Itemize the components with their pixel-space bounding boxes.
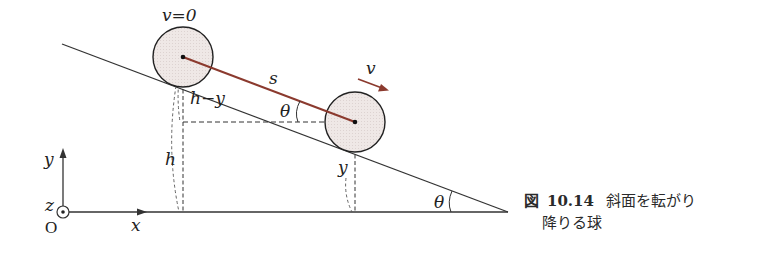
figure-label: 図 bbox=[524, 192, 539, 210]
label-h-minus-y: h−y bbox=[190, 88, 225, 108]
figure-caption: 図10.14斜面を転がり 降りる球 bbox=[524, 190, 696, 234]
label-y-axis: y bbox=[43, 149, 54, 169]
figure-number: 10.14 bbox=[547, 192, 594, 210]
label-x-axis: x bbox=[131, 215, 141, 235]
theta-upper-arc bbox=[296, 101, 300, 122]
label-h: h bbox=[165, 149, 176, 169]
label-theta-lower: θ bbox=[434, 192, 444, 212]
velocity-arrow bbox=[358, 79, 382, 88]
label-theta-upper: θ bbox=[280, 101, 290, 121]
label-s: s bbox=[269, 68, 278, 88]
label-y-height: y bbox=[337, 157, 348, 177]
label-v-zero: v=0 bbox=[162, 5, 197, 25]
label-origin: O bbox=[45, 218, 57, 237]
caption-line-2: 降りる球 bbox=[524, 212, 696, 234]
label-v: v bbox=[366, 58, 376, 78]
label-z-axis: z bbox=[44, 195, 55, 215]
incline-line bbox=[62, 44, 508, 212]
caption-line-1: 斜面を転がり bbox=[606, 192, 696, 210]
y-axis-arrowhead bbox=[60, 148, 67, 158]
theta-lower-arc bbox=[449, 191, 452, 212]
